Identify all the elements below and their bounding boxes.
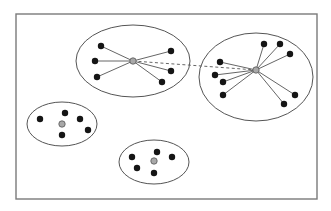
node	[59, 132, 65, 138]
node	[98, 43, 104, 49]
node	[168, 48, 174, 54]
node	[77, 116, 83, 122]
hub-node	[130, 58, 136, 64]
node	[37, 116, 43, 122]
node	[212, 72, 218, 78]
node	[261, 41, 267, 47]
hub-node	[59, 121, 65, 127]
node	[281, 101, 287, 107]
node	[220, 79, 226, 85]
node	[169, 154, 175, 160]
edge	[256, 54, 290, 70]
hub-node	[151, 158, 157, 164]
node	[217, 59, 223, 65]
node	[94, 74, 100, 80]
node	[287, 51, 293, 57]
cluster-edges	[95, 44, 295, 104]
node	[151, 170, 157, 176]
node	[129, 154, 135, 160]
edge	[101, 46, 133, 61]
node	[159, 79, 165, 85]
hub-node	[253, 67, 259, 73]
edge	[133, 61, 162, 82]
node	[85, 127, 91, 133]
edge	[133, 51, 171, 61]
node	[62, 110, 68, 116]
diagram-frame	[16, 14, 317, 199]
cluster-diagram	[0, 0, 331, 211]
node	[292, 92, 298, 98]
node	[92, 58, 98, 64]
edge	[97, 61, 133, 77]
node	[277, 41, 283, 47]
edge	[256, 70, 284, 104]
node	[134, 165, 140, 171]
node	[168, 68, 174, 74]
edge	[256, 70, 295, 95]
node	[220, 92, 226, 98]
node	[154, 149, 160, 155]
